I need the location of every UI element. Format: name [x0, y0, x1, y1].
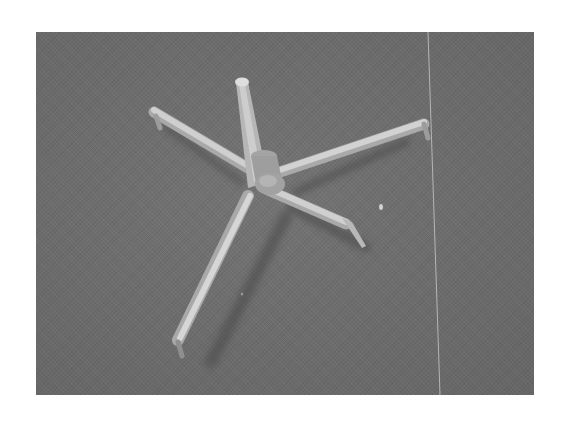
divider-line: [428, 32, 440, 395]
debris-speck: [379, 204, 383, 210]
figure-page: Grayscale photograph of a 3D-printed fiv…: [0, 0, 561, 421]
photograph: Grayscale photograph of a 3D-printed fiv…: [36, 32, 534, 395]
strut-structure-illustration: [36, 32, 534, 395]
shadows: [166, 127, 406, 362]
